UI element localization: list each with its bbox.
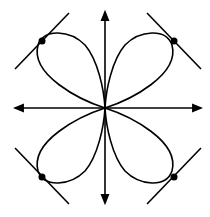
petal-upper-right (105, 33, 173, 108)
petal-lower-right (105, 108, 173, 183)
point-lower-left (39, 174, 46, 181)
petal-lower-left (37, 108, 105, 183)
four-leaved-rose-diagram (0, 0, 210, 217)
petal-upper-left (37, 33, 105, 108)
point-lower-right (171, 174, 178, 181)
point-upper-right (171, 38, 178, 45)
point-upper-left (39, 38, 46, 45)
